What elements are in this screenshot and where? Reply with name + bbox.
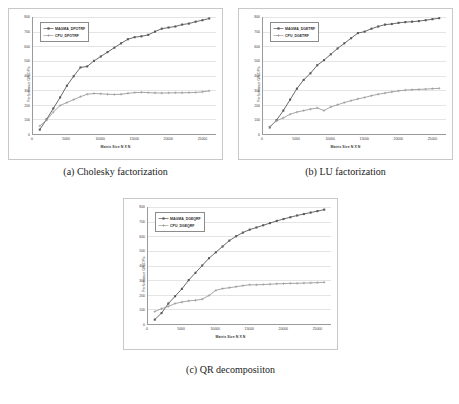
x-tick-label: 5000 — [292, 137, 300, 141]
chart-legend: MAGMA_DPOTRFCPU_DPOTRF — [40, 22, 89, 42]
legend-item: MAGMA_DPOTRF — [43, 25, 85, 32]
y-tick-label: 400 — [139, 264, 145, 268]
y-tick-label: 600 — [254, 45, 260, 49]
legend-marker-plus-icon — [43, 33, 54, 38]
figure-caption: (b) LU factorization — [238, 166, 453, 177]
x-tick-label: 15000 — [360, 137, 369, 141]
y-tick-label: 100 — [24, 118, 30, 122]
y-tick-labels: 0100200300400500600700800 — [131, 207, 145, 325]
y-tick-label: 200 — [139, 294, 145, 298]
legend-marker-plus-icon — [158, 223, 169, 228]
legend-item: MAGMA_DGETRF — [273, 25, 315, 32]
chart-legend: MAGMA_DGEQRFCPU_DGEQRF — [155, 212, 205, 232]
x-tick-label: 20000 — [394, 137, 403, 141]
legend-marker-square-icon — [43, 26, 54, 31]
series-cpu_dpotrf — [39, 90, 211, 128]
y-tick-label: 800 — [24, 15, 30, 19]
y-tick-labels: 0100200300400500600700800 — [16, 17, 30, 135]
x-axis-title: Matrix Size N X N — [124, 335, 337, 339]
y-tick-label: 700 — [24, 30, 30, 34]
y-tick-label: 400 — [254, 74, 260, 78]
y-tick-label: 500 — [139, 249, 145, 253]
y-tick-label: 200 — [254, 104, 260, 108]
x-tick-label: 10000 — [210, 327, 219, 331]
x-axis-title: Matrix Size N X N — [239, 145, 452, 149]
y-tick-label: 0 — [28, 133, 30, 137]
series-cpu_dgeqrf — [154, 281, 326, 313]
chart-legend: MAGMA_DGETRFCPU_DGETRF — [270, 22, 319, 42]
figure-panel-cholesky: Performance GFLOP/s 01002003004005006007… — [8, 8, 223, 190]
y-tick-label: 700 — [139, 220, 145, 224]
y-tick-label: 500 — [254, 59, 260, 63]
x-tick-label: 15000 — [130, 137, 139, 141]
y-tick-label: 600 — [139, 235, 145, 239]
legend-label: MAGMA_DGEQRF — [170, 217, 201, 221]
y-tick-label: 700 — [254, 30, 260, 34]
y-tick-label: 800 — [254, 15, 260, 19]
legend-label: CPU_DPOTRF — [55, 34, 79, 38]
y-tick-label: 100 — [139, 308, 145, 312]
legend-marker-square-icon — [158, 216, 169, 221]
legend-item: CPU_DGETRF — [273, 32, 315, 39]
x-tick-label: 0 — [261, 137, 263, 141]
x-tick-label: 15000 — [245, 327, 254, 331]
legend-item: MAGMA_DGEQRF — [158, 215, 201, 222]
y-tick-label: 300 — [139, 279, 145, 283]
y-tick-labels: 0100200300400500600700800 — [246, 17, 260, 135]
legend-label: CPU_DGEQRF — [170, 224, 195, 228]
y-tick-label: 300 — [254, 89, 260, 93]
x-tick-label: 10000 — [325, 137, 334, 141]
x-tick-label: 5000 — [177, 327, 185, 331]
y-tick-label: 400 — [24, 74, 30, 78]
y-tick-label: 300 — [24, 89, 30, 93]
x-tick-label: 25000 — [198, 137, 207, 141]
chart-lu: Performance GFLOP/s 01002003004005006007… — [238, 8, 453, 160]
y-tick-label: 800 — [139, 205, 145, 209]
x-tick-label: 5000 — [62, 137, 70, 141]
x-tick-label: 20000 — [164, 137, 173, 141]
y-tick-label: 0 — [258, 133, 260, 137]
y-tick-label: 0 — [143, 323, 145, 327]
x-tick-label: 25000 — [428, 137, 437, 141]
x-tick-label: 0 — [31, 137, 33, 141]
y-tick-label: 600 — [24, 45, 30, 49]
x-tick-label: 25000 — [313, 327, 322, 331]
legend-marker-square-icon — [273, 26, 284, 31]
y-tick-label: 500 — [24, 59, 30, 63]
figure-caption: (c) QR decomposiiton — [123, 364, 338, 375]
x-tick-label: 10000 — [95, 137, 104, 141]
x-tick-labels: 0500010000150002000025000 — [262, 137, 446, 145]
legend-label: CPU_DGETRF — [285, 34, 309, 38]
legend-item: CPU_DPOTRF — [43, 32, 85, 39]
legend-item: CPU_DGEQRF — [158, 222, 201, 229]
y-tick-label: 100 — [254, 118, 260, 122]
legend-marker-plus-icon — [273, 33, 284, 38]
legend-label: MAGMA_DPOTRF — [55, 27, 85, 31]
figure-caption: (a) Cholesky factorization — [8, 166, 223, 177]
x-axis-title: Matrix Size N X N — [9, 145, 222, 149]
chart-cholesky: Performance GFLOP/s 01002003004005006007… — [8, 8, 223, 160]
x-tick-label: 20000 — [279, 327, 288, 331]
figure-panel-lu: Performance GFLOP/s 01002003004005006007… — [238, 8, 453, 190]
legend-label: MAGMA_DGETRF — [285, 27, 315, 31]
chart-qr: Performance GFLOP/s 01002003004005006007… — [123, 198, 338, 350]
x-tick-label: 0 — [146, 327, 148, 331]
x-tick-labels: 0500010000150002000025000 — [32, 137, 216, 145]
figure-panel-qr: Performance GFLOP/s 01002003004005006007… — [123, 198, 338, 390]
x-tick-labels: 0500010000150002000025000 — [147, 327, 331, 335]
y-tick-label: 200 — [24, 104, 30, 108]
